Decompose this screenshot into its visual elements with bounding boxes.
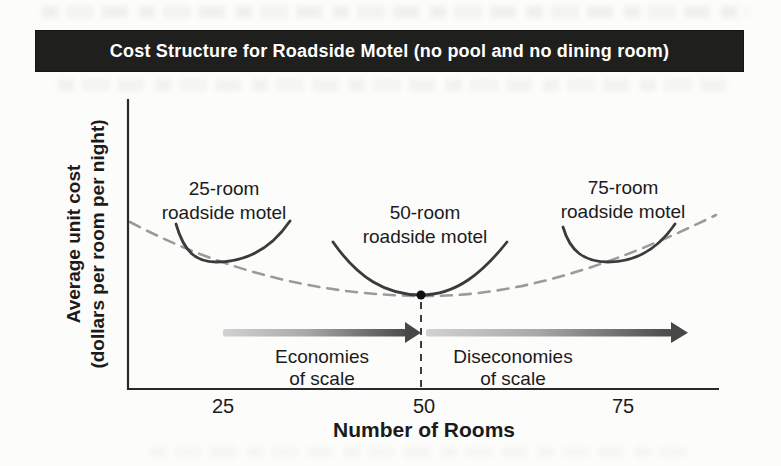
diseconomies-arrowhead-icon — [671, 322, 688, 343]
diseconomies-arrow — [426, 322, 688, 343]
sac-25-label-line2: roadside motel — [162, 202, 287, 223]
diseconomies-label-line1: Diseconomies — [453, 346, 572, 367]
economies-arrow — [223, 322, 421, 343]
y-axis-label-line1: Average unit cost — [63, 164, 84, 323]
economies-arrow-shaft — [223, 329, 406, 337]
sac-curve-75-room — [563, 224, 675, 262]
economies-arrowhead-icon — [405, 322, 421, 343]
x-tick-75: 75 — [612, 395, 634, 417]
x-tick-25: 25 — [212, 395, 234, 417]
cost-curves-chart: Average unit cost (dollars per room per … — [0, 0, 781, 466]
sac-25-label-line1: 25-room — [189, 178, 260, 199]
sac-50-label-line1: 50-room — [390, 202, 461, 223]
sac-curve-50-room — [333, 242, 507, 295]
economies-label-line2: of scale — [289, 368, 354, 389]
minimum-point-dot — [417, 291, 426, 300]
sac-50-label-line2: roadside motel — [363, 226, 488, 247]
sac-75-label-line2: roadside motel — [561, 201, 686, 222]
economies-label-line1: Economies — [275, 346, 369, 367]
textbook-figure-page: Cost Structure for Roadside Motel (no po… — [0, 0, 781, 466]
sac-75-label-line1: 75-room — [588, 177, 659, 198]
sac-curve-25-room — [176, 221, 290, 262]
x-tick-50: 50 — [413, 395, 435, 417]
y-axis-label-line2: (dollars per room per night) — [87, 119, 108, 368]
diseconomies-arrow-shaft — [426, 329, 672, 337]
x-axis-label: Number of Rooms — [333, 418, 515, 441]
diseconomies-label-line2: of scale — [480, 368, 545, 389]
